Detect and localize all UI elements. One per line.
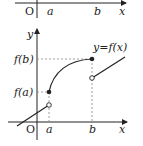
main-graph: y y=f(x) f(b) f(a) O a b x [8, 28, 127, 140]
function-graph: O a b x y y=f(x) f(b) f(a) O a b x [0, 0, 143, 146]
open-point-b [90, 76, 95, 81]
x-axis-label: x [119, 123, 126, 136]
filled-point-a [47, 90, 52, 95]
curve-label: y=f(x) [92, 41, 127, 54]
filled-point-b [90, 57, 95, 62]
y-tick-fa: f(a) [13, 86, 33, 99]
y-axis-label: y [26, 28, 34, 41]
top-origin-label: O [25, 5, 34, 18]
top-x-label: x [119, 5, 126, 18]
top-tick-a: a [47, 5, 54, 18]
top-tick-b: b [94, 5, 101, 18]
x-tick-a: a [46, 123, 53, 136]
curve-middle [49, 59, 92, 92]
top-panel: O a b x [15, 0, 126, 18]
origin-label: O [26, 123, 35, 136]
x-tick-b: b [89, 123, 96, 136]
open-point-a [47, 103, 52, 108]
segment-right [92, 57, 125, 78]
y-tick-fb: f(b) [13, 53, 34, 66]
